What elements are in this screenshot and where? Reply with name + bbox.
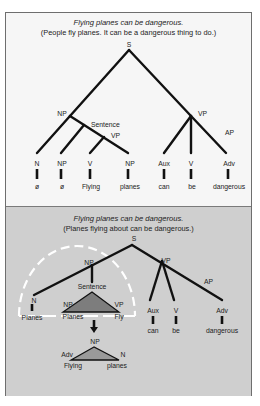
tri2-leaf-left: Flying xyxy=(64,362,82,370)
node-VP: VP xyxy=(161,257,171,264)
leaf-v: be xyxy=(172,327,180,334)
node-N: N xyxy=(35,160,40,167)
node-Adv: Adv xyxy=(223,160,235,167)
node-VP: VP xyxy=(198,110,208,117)
node-Sentence: Sentence xyxy=(78,283,107,290)
node-V2: V xyxy=(189,160,194,167)
tri2-N: N xyxy=(121,351,126,358)
leaf-0: ø xyxy=(35,183,39,190)
tri-VP: VP xyxy=(114,301,124,308)
np-triangle xyxy=(71,347,119,360)
leaf-3: planes xyxy=(120,183,141,191)
node-Aux: Aux xyxy=(158,160,170,167)
node-NP: NP xyxy=(84,259,94,266)
node-NP2: NP xyxy=(57,160,67,167)
node-V: V xyxy=(88,160,93,167)
node-Aux: Aux xyxy=(147,307,159,314)
node-Sentence: Sentence xyxy=(91,121,120,128)
node-AP: AP xyxy=(204,278,214,285)
leaf-2: Flying xyxy=(82,183,100,191)
top-panel: Flying planes can be dangerous. (People … xyxy=(6,13,251,206)
node-NP-result: NP xyxy=(90,338,100,345)
leaf-1: ø xyxy=(60,183,64,190)
tri-leaf-right: Fly xyxy=(114,313,124,321)
leaf-aux: can xyxy=(148,327,159,334)
leaf-N: Planes xyxy=(22,314,43,321)
bottom-tree: S NP VP AP N Sentence Aux V Adv Planes N… xyxy=(6,207,253,397)
node-NP: NP xyxy=(57,110,67,117)
diagram-frame: Flying planes can be dangerous. (People … xyxy=(5,12,252,396)
tri-NP: NP xyxy=(63,301,73,308)
leaf-adv: dangerous xyxy=(206,327,239,335)
leaf-5: be xyxy=(188,183,196,190)
leaf-4: can xyxy=(159,183,170,190)
tri-leaf-left: Planes xyxy=(63,313,84,320)
leaf-6: dangerous xyxy=(213,183,246,191)
node-S: S xyxy=(127,41,132,48)
bottom-panel: Flying planes can be dangerous. (Planes … xyxy=(6,206,251,396)
tri2-leaf-right: planes xyxy=(107,362,128,370)
node-VP-inner: VP xyxy=(111,132,121,139)
node-N: N xyxy=(32,297,37,304)
node-AP: AP xyxy=(225,129,235,136)
top-tree: S NP Sentence VP VP AP N NP V NP Aux V A… xyxy=(6,13,253,206)
down-arrow-icon xyxy=(90,327,98,333)
node-S: S xyxy=(132,235,137,242)
node-V: V xyxy=(174,307,179,314)
node-NP3: NP xyxy=(125,160,135,167)
node-Adv: Adv xyxy=(216,307,228,314)
tri2-Adv: Adv xyxy=(61,351,73,358)
